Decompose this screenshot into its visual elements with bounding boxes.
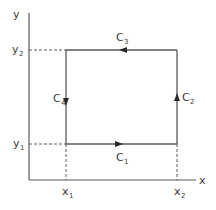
tick-y1: y 1 xyxy=(13,137,24,152)
tick-y2-sub: 2 xyxy=(19,50,23,58)
arrow-left-icon xyxy=(119,47,127,53)
label-c2: C 2 xyxy=(182,91,194,106)
tick-x2-sub: 2 xyxy=(181,192,185,200)
label-c3: C 3 xyxy=(116,31,128,46)
tick-y2-base: y xyxy=(12,43,19,56)
arrow-up-icon xyxy=(174,93,180,101)
y-axis-label: y xyxy=(13,8,20,21)
tick-x1-sub: 1 xyxy=(69,192,73,200)
label-c4-base: C xyxy=(53,92,61,105)
label-c4: C 4 xyxy=(53,92,66,107)
tick-y1-sub: 1 xyxy=(20,144,24,152)
label-c3-sub: 3 xyxy=(124,38,128,46)
projection-lines xyxy=(29,50,177,180)
label-c1-sub: 1 xyxy=(124,158,128,166)
x-axis-label: x xyxy=(199,174,206,187)
line-integral-diagram: y x y 2 y 1 x 1 x 2 C 1 C 2 C 3 C 4 xyxy=(0,0,216,210)
label-c4-sub: 4 xyxy=(61,99,66,107)
label-c1: C 1 xyxy=(116,151,128,166)
label-c2-sub: 2 xyxy=(190,98,194,106)
arrowheads xyxy=(63,47,180,147)
arrow-right-icon xyxy=(115,141,123,147)
tick-x2-base: x xyxy=(174,185,181,198)
tick-y2: y 2 xyxy=(12,43,23,58)
label-c1-base: C xyxy=(116,151,124,164)
label-c2-base: C xyxy=(182,91,190,104)
label-c3-base: C xyxy=(116,31,124,44)
tick-y1-base: y xyxy=(13,137,20,150)
tick-x1-base: x xyxy=(62,185,69,198)
closed-path xyxy=(66,50,177,144)
tick-x1: x 1 xyxy=(62,185,73,200)
tick-x2: x 2 xyxy=(174,185,185,200)
